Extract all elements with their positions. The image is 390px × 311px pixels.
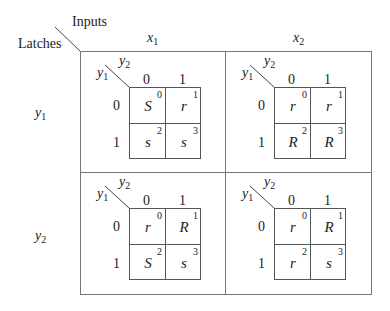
kmap-cell-2: r2 [275,245,311,281]
row-value-0: 0 [113,99,120,113]
kmap-cell-3: s3 [311,245,347,281]
row-value-0: 0 [258,99,265,113]
col-var-label: y2 [264,54,275,70]
row-value-1: 1 [113,136,120,150]
kmap-grid: S0 r1 s2 s3 [129,87,201,159]
kmap-diagonal [80,172,140,212]
col-var-label: y2 [264,175,275,191]
row-label-y2: y2 [35,229,46,245]
col-value-1: 1 [179,73,186,87]
kmap-y1-x2: y2 y1 0 1 0 1 r0 r1 R2 R3 [225,51,370,172]
kmap-grid: r0 r1 R2 R3 [274,87,346,159]
kmap-grid: r0 R1 S2 s3 [129,208,201,280]
kmap-y2-x2: y2 y1 0 1 0 1 r0 R1 r2 s3 [225,172,370,293]
row-var-label: y1 [242,187,253,203]
kmap-cell-2: R2 [275,124,311,160]
row-var-label: y1 [242,66,253,82]
kmap-cell-1: r1 [166,88,202,124]
kmap-cell-1: r1 [311,88,347,124]
row-value-1: 1 [113,257,120,271]
kmap-diagonal [225,172,285,212]
kmap-cell-3: s3 [166,245,202,281]
kmap-y1-x1: y2 y1 0 1 0 1 S0 r1 s2 s3 [80,51,225,172]
kmap-cell-0: r0 [130,209,166,245]
kmap-cell-2: s2 [130,124,166,160]
kmap-cell-0: S0 [130,88,166,124]
col-value-0: 0 [288,194,295,208]
kmap-diagonal [225,51,285,91]
kmap-y2-x1: y2 y1 0 1 0 1 r0 R1 S2 s3 [80,172,225,293]
col-label-x2: x2 [293,31,304,47]
col-value-0: 0 [143,194,150,208]
kmap-cell-3: R3 [311,124,347,160]
kmap-cell-3: s3 [166,124,202,160]
row-var-label: y1 [97,187,108,203]
col-value-1: 1 [324,73,331,87]
col-value-1: 1 [324,194,331,208]
col-value-0: 0 [143,73,150,87]
kmap-grid: r0 R1 r2 s3 [274,208,346,280]
row-value-1: 1 [258,136,265,150]
kmap-cell-0: r0 [275,209,311,245]
col-value-1: 1 [179,194,186,208]
row-value-0: 0 [258,220,265,234]
inputs-label: Inputs [72,15,107,29]
row-value-0: 0 [113,220,120,234]
kmap-cell-0: r0 [275,88,311,124]
kmap-cell-2: S2 [130,245,166,281]
row-value-1: 1 [258,257,265,271]
kmap-diagonal [80,51,140,91]
col-var-label: y2 [119,175,130,191]
col-var-label: y2 [119,54,130,70]
kmap-cell-1: R1 [311,209,347,245]
kmap-cell-1: R1 [166,209,202,245]
row-var-label: y1 [97,66,108,82]
col-label-x1: x1 [147,31,158,47]
col-value-0: 0 [288,73,295,87]
latches-label: Latches [18,37,62,51]
row-label-y1: y1 [35,106,46,122]
